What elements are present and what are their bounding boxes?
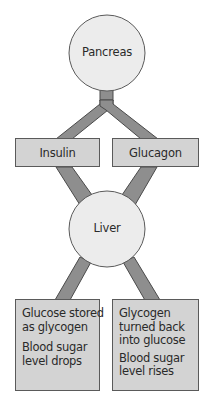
text-line: level drops [22,355,95,369]
pancreas-label: Pancreas [69,47,145,59]
glucagon-result-text: Blood sugar level rises [119,352,194,379]
insulin-label: Insulin [16,146,99,160]
insulin-effect-text: Glucose stored as glycogen [22,307,95,334]
text-line: into glucose [119,334,194,348]
insulin-result-text: Blood sugar level drops [22,341,95,368]
text-line: Blood sugar [22,341,95,355]
glucagon-outcome-box: Glycogen turned back into glucose Blood … [112,299,199,391]
glucagon-label: Glucagon [113,146,198,160]
text-line: level rises [119,365,194,379]
text-line: Blood sugar [119,352,194,366]
connector-pancreas-to-glucagon [100,100,158,139]
connector-liver-to-glucose-stored [55,257,91,300]
text-line: Glycogen [119,307,194,321]
glucagon-effect-text: Glycogen turned back into glucose [119,307,194,348]
connector-liver-to-glycogen-turned [123,257,160,302]
liver-label: Liver [69,223,145,235]
glucagon-box: Glucagon [112,138,199,167]
insulin-box: Insulin [15,138,100,167]
text-line: Glucose stored [22,307,95,321]
insulin-outcome-box: Glucose stored as glycogen Blood sugar l… [15,299,100,391]
text-line: turned back [119,321,194,335]
text-line: as glycogen [22,321,95,335]
